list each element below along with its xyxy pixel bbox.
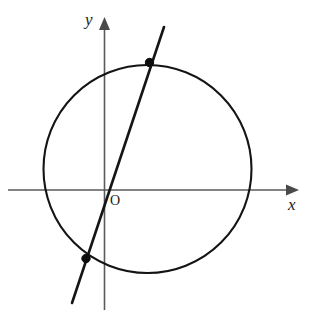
origin-label: O — [110, 194, 120, 208]
circle-shape — [44, 65, 252, 273]
upper-intersection-point — [145, 58, 153, 66]
y-axis-label: y — [85, 11, 93, 28]
geometry-canvas — [0, 0, 313, 319]
lower-intersection-point — [82, 254, 90, 262]
arrow-right-icon — [286, 185, 299, 196]
x-axis-label: x — [288, 196, 296, 213]
geometry-figure: y x O — [0, 0, 313, 319]
arrow-up-icon — [99, 17, 110, 30]
